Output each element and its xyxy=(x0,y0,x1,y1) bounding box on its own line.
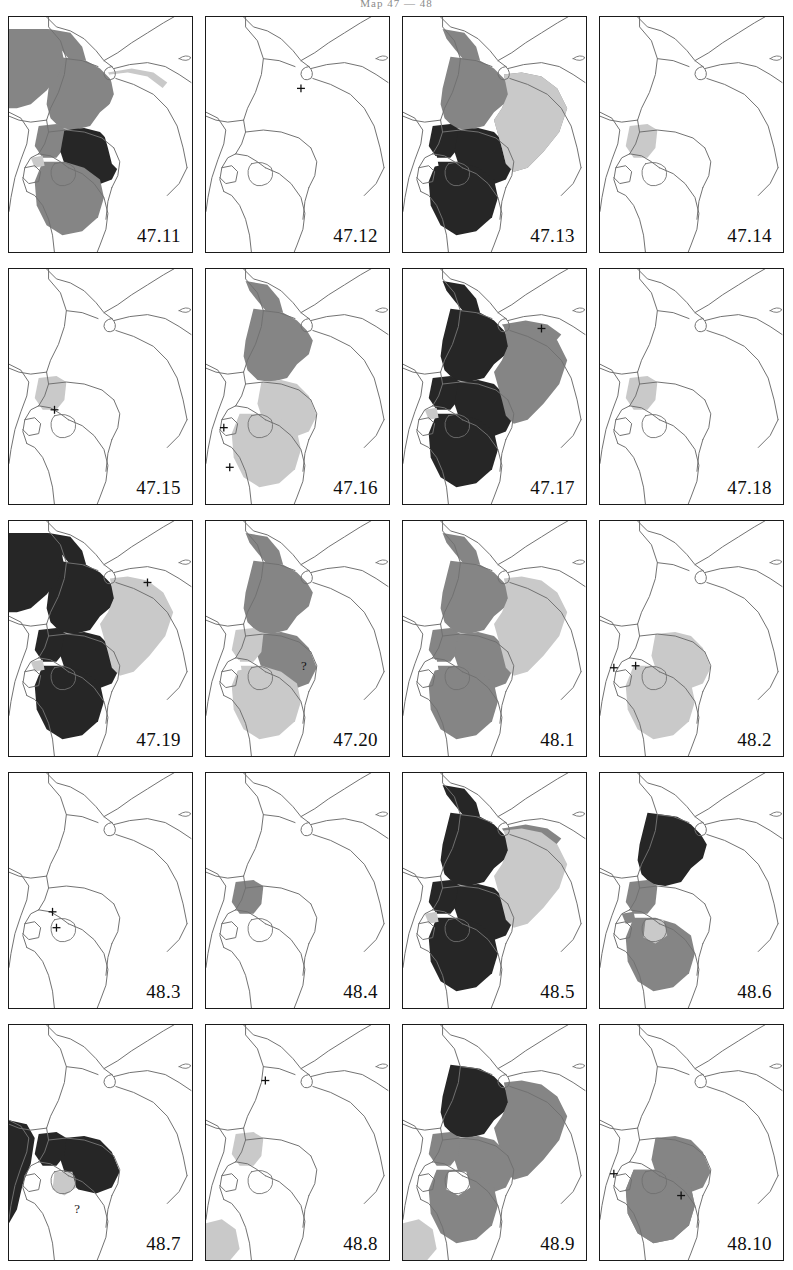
question-mark: ? xyxy=(74,1202,80,1216)
panel-label: 47.15 xyxy=(136,478,181,497)
map-panel-48-9[interactable]: 48.9 xyxy=(402,1024,587,1261)
region-south-strip xyxy=(403,1219,437,1260)
map-graphic: ? xyxy=(9,1025,192,1260)
map-panel-48-1[interactable]: 48.1 xyxy=(402,520,587,757)
map-panel-47-17[interactable]: 47.17 xyxy=(402,268,587,505)
map-graphic xyxy=(9,17,192,252)
panel-label: 48.5 xyxy=(540,982,575,1001)
map-panel-48-7[interactable]: ?48.7 xyxy=(8,1024,193,1261)
map-panel-48-4[interactable]: 48.4 xyxy=(205,772,390,1009)
map-graphic xyxy=(600,269,783,504)
map-panel-47-15[interactable]: 47.15 xyxy=(8,268,193,505)
region-ethiopia xyxy=(244,309,313,382)
map-panel-48-6[interactable]: 48.6 xyxy=(599,772,784,1009)
map-panel-47-20[interactable]: ?47.20 xyxy=(205,520,390,757)
map-graphic xyxy=(600,773,783,1008)
map-panel-47-18[interactable]: 47.18 xyxy=(599,268,784,505)
panel-label: 48.7 xyxy=(146,1234,181,1253)
map-graphic xyxy=(403,17,586,252)
panel-label: 47.13 xyxy=(530,226,575,245)
map-graphic xyxy=(403,269,586,504)
cross-marker xyxy=(261,1077,269,1085)
panel-label: 47.18 xyxy=(727,478,772,497)
map-panel-48-2[interactable]: 48.2 xyxy=(599,520,784,757)
cross-marker xyxy=(297,84,305,92)
panel-label: 47.14 xyxy=(727,226,772,245)
panel-label: 48.8 xyxy=(343,1234,378,1253)
region-congo-strip xyxy=(9,1120,35,1223)
panel-label: 48.2 xyxy=(737,730,772,749)
region-ethiopia xyxy=(244,561,313,634)
panel-label: 48.4 xyxy=(343,982,378,1001)
panel-label: 47.19 xyxy=(136,730,181,749)
map-graphic xyxy=(600,17,783,252)
panel-label: 47.12 xyxy=(333,226,378,245)
map-graphic xyxy=(206,269,389,504)
map-panel-47-13[interactable]: 47.13 xyxy=(402,16,587,253)
panel-label: 48.6 xyxy=(737,982,772,1001)
map-graphic xyxy=(9,521,192,756)
panel-label: 48.3 xyxy=(146,982,181,1001)
map-graphic xyxy=(600,521,783,756)
region-tanzania-south xyxy=(206,1219,240,1260)
map-graphic xyxy=(600,1025,783,1260)
map-graphic xyxy=(403,1025,586,1260)
panel-label: 48.9 xyxy=(540,1234,575,1253)
region-ethiopia xyxy=(638,813,707,886)
panel-label: 47.17 xyxy=(530,478,575,497)
map-panel-47-12[interactable]: 47.12 xyxy=(205,16,390,253)
panel-label: 48.10 xyxy=(727,1234,772,1253)
panel-label: 47.11 xyxy=(137,226,181,245)
panel-label: 48.1 xyxy=(540,730,575,749)
map-panel-47-11[interactable]: 47.11 xyxy=(8,16,193,253)
map-panel-grid: 47.11 47.12 xyxy=(8,16,786,1262)
map-panel-48-3[interactable]: 48.3 xyxy=(8,772,193,1009)
map-graphic xyxy=(403,773,586,1008)
map-panel-47-19[interactable]: 47.19 xyxy=(8,520,193,757)
map-panel-47-14[interactable]: 47.14 xyxy=(599,16,784,253)
map-graphic xyxy=(206,17,389,252)
map-panel-47-16[interactable]: 47.16 xyxy=(205,268,390,505)
map-panel-48-8[interactable]: 48.8 xyxy=(205,1024,390,1261)
map-graphic xyxy=(206,1025,389,1260)
map-panel-48-10[interactable]: 48.10 xyxy=(599,1024,784,1261)
map-graphic: ? xyxy=(206,521,389,756)
panel-label: 47.16 xyxy=(333,478,378,497)
map-graphic xyxy=(9,773,192,1008)
cross-marker xyxy=(53,924,61,932)
map-graphic xyxy=(206,773,389,1008)
page-header: Map 47 — 48 xyxy=(0,0,793,9)
question-mark: ? xyxy=(301,659,307,673)
panel-label: 47.20 xyxy=(333,730,378,749)
map-panel-48-5[interactable]: 48.5 xyxy=(402,772,587,1009)
map-graphic xyxy=(9,269,192,504)
cross-marker xyxy=(226,463,234,471)
map-graphic xyxy=(403,521,586,756)
